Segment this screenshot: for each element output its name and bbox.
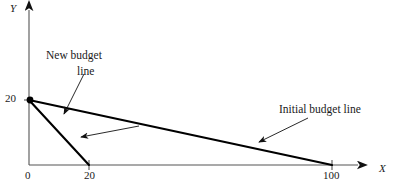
- initial-budget-line-annotation: Initial budget line: [279, 104, 361, 116]
- new-budget-line-leader-secondary: [81, 126, 139, 137]
- y-intercept-point: [27, 97, 34, 104]
- x-tick-label-20: 20: [84, 170, 95, 181]
- new-budget-line-annotation-line2: line: [77, 66, 94, 78]
- budget-line-figure: Y X 20 0 20 100 New budget line Initial …: [0, 0, 398, 189]
- y-tick-label-20: 20: [5, 93, 16, 104]
- x-tick-label-100: 100: [323, 170, 340, 181]
- figure-canvas: [0, 0, 398, 189]
- new-budget-line-annotation-line1: New budget: [46, 50, 102, 62]
- new-budget-line-leader: [64, 74, 84, 114]
- x-axis-label: X: [379, 163, 386, 174]
- initial-budget-line-leader: [259, 118, 308, 142]
- y-axis-label: Y: [10, 3, 16, 14]
- origin-label: 0: [25, 170, 31, 181]
- new-budget-line: [29, 100, 89, 165]
